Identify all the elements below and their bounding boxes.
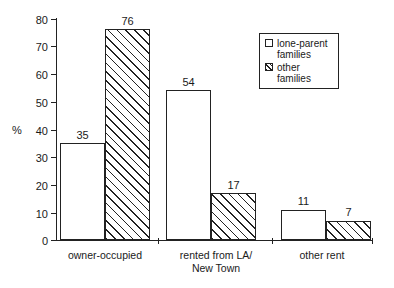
bar-rented-la-other <box>211 193 256 240</box>
y-tick-label-20: 20 <box>0 180 48 192</box>
y-tick-label-80: 80 <box>0 14 48 26</box>
legend-label-lone-parent-families: lone-parent families <box>277 38 328 60</box>
x-tick-label-rented-la: rented from LA/ New Town <box>160 249 272 275</box>
y-tick-label-40: 40 <box>0 125 48 137</box>
bar-value-owner-occupied-other: 76 <box>105 16 150 27</box>
y-tick-0 <box>51 240 56 241</box>
empty-square-swatch-icon <box>265 39 273 47</box>
bar-other-rent-lone-parent <box>281 210 326 241</box>
bar-owner-occupied-lone-parent <box>60 143 105 240</box>
y-tick-label-50: 50 <box>0 97 48 109</box>
legend-item-other-families: other families <box>265 62 333 84</box>
bar-rented-la-lone-parent <box>166 90 211 240</box>
bar-value-rented-la-other: 17 <box>211 180 256 191</box>
y-tick-label-70: 70 <box>0 41 48 53</box>
x-axis-line <box>56 240 373 241</box>
bar-owner-occupied-other <box>105 29 150 240</box>
legend: lone-parent families other families <box>259 33 339 89</box>
y-tick-label-30: 30 <box>0 152 48 164</box>
y-tick-label-10: 10 <box>0 208 48 220</box>
y-tick-label-60: 60 <box>0 69 48 81</box>
bar-value-owner-occupied-lone-parent: 35 <box>60 130 105 141</box>
bar-chart: % 80 70 60 50 40 30 20 10 0 35 76 54 17 … <box>0 0 394 288</box>
y-tick-label-0: 0 <box>0 235 48 247</box>
x-tick-label-other-rent: other rent <box>272 249 372 262</box>
bar-other-rent-other <box>326 221 371 240</box>
legend-label-other-families: other families <box>277 62 311 84</box>
legend-item-lone-parent-families: lone-parent families <box>265 38 333 60</box>
x-tick-label-owner-occupied: owner-occupied <box>50 249 160 262</box>
bar-value-other-rent-other: 7 <box>326 207 371 218</box>
hatched-square-swatch-icon <box>265 63 273 71</box>
bar-value-other-rent-lone-parent: 11 <box>281 196 326 207</box>
bar-value-rented-la-lone-parent: 54 <box>166 77 211 88</box>
